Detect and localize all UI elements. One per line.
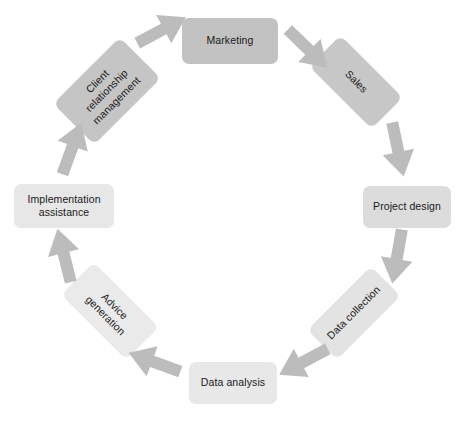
node-client-relationship-management[interactable]: Client relationship management [53, 37, 160, 144]
node-data-analysis[interactable]: Data analysis [189, 362, 277, 404]
node-advice-generation[interactable]: Advice generation [61, 262, 159, 360]
node-sales[interactable]: Sales [309, 35, 402, 128]
node-label: Sales [342, 68, 370, 96]
node-label: Data collection [324, 283, 383, 342]
cycle-diagram: MarketingSalesProject designData collect… [0, 0, 464, 428]
node-label: Client relationship management [71, 55, 143, 127]
node-label: Advice generation [83, 284, 137, 338]
node-implementation-assistance[interactable]: Implementation assistance [14, 184, 114, 228]
node-label: Marketing [206, 34, 253, 47]
arrow-sales-to-project-design [376, 119, 421, 181]
node-label: Data analysis [201, 376, 265, 389]
node-label: Project design [373, 200, 441, 213]
node-marketing[interactable]: Marketing [182, 18, 278, 64]
node-project-design[interactable]: Project design [363, 186, 451, 228]
node-data-collection[interactable]: Data collection [307, 266, 400, 359]
node-label: Implementation assistance [27, 193, 100, 219]
